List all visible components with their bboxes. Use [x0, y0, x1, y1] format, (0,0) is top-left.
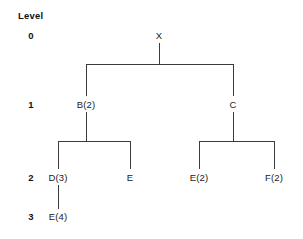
level-number-2: 2	[28, 172, 33, 183]
tree-node-X[interactable]: X	[156, 30, 162, 41]
tree-node-B[interactable]: B(2)	[77, 99, 95, 110]
level-number-1: 1	[28, 99, 33, 110]
tree-node-E4[interactable]: E(4)	[49, 211, 67, 222]
level-axis-title: Level	[18, 10, 43, 21]
tree-node-C[interactable]: C	[230, 99, 237, 110]
tree-node-E2[interactable]: E(2)	[190, 172, 208, 183]
tree-node-D[interactable]: D(3)	[49, 172, 68, 183]
tree-node-F[interactable]: F(2)	[265, 172, 283, 183]
level-number-0: 0	[28, 30, 33, 41]
tree-edges-svg	[0, 0, 303, 239]
edge-group	[58, 43, 274, 209]
tree-diagram-canvas: Level 0123 XB(2)CD(3)EE(2)F(2)E(4)	[0, 0, 303, 239]
tree-node-E1[interactable]: E	[127, 172, 133, 183]
level-number-3: 3	[28, 211, 33, 222]
